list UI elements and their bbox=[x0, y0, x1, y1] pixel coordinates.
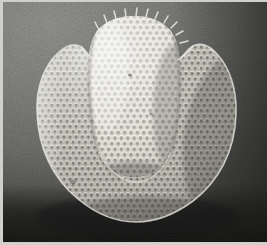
compound-eye bbox=[3, 2, 267, 242]
surface-pit-lower bbox=[149, 113, 153, 116]
figure-root bbox=[0, 0, 267, 245]
surface-pit-upper bbox=[128, 73, 132, 76]
compound-eye-svg bbox=[3, 2, 267, 242]
sem-micrograph-image bbox=[3, 2, 267, 242]
surface-pit-left bbox=[70, 180, 76, 184]
